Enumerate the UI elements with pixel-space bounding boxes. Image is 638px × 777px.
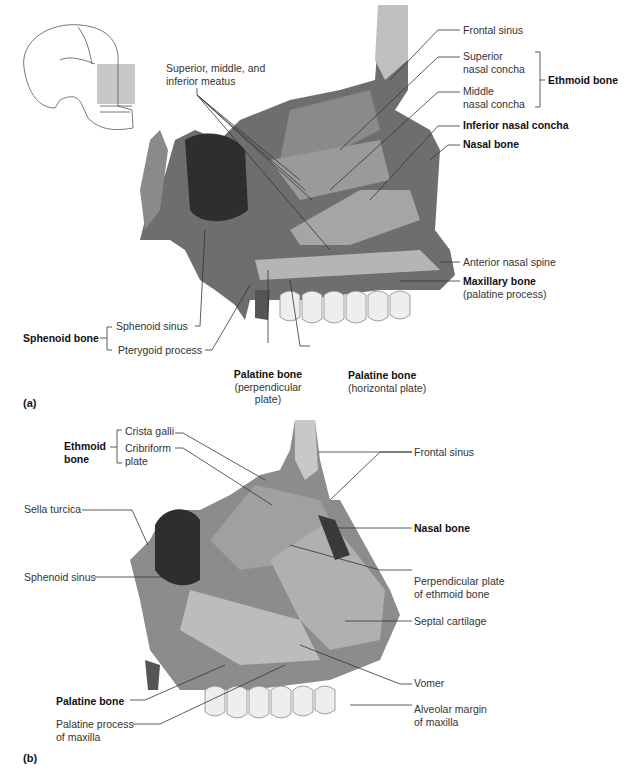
label-maxillary-bone-title: Maxillary bone: [463, 275, 546, 288]
label-ethmoid-bone-a: Ethmoid bone: [548, 74, 618, 87]
label-palatine-process-line1: Palatine process: [56, 718, 134, 731]
label-middle-concha-line1: Middle: [463, 85, 525, 98]
label-alveolar-line2: of maxilla: [414, 716, 487, 729]
label-superior-concha: Superior nasal concha: [463, 50, 525, 75]
label-cribriform-line2: plate: [125, 455, 171, 468]
label-palatine-process-line2: of maxilla: [56, 731, 134, 744]
label-ethmoid-bone-b: Ethmoid bone: [64, 440, 106, 465]
label-middle-concha-line2: nasal concha: [463, 98, 525, 111]
label-cribriform-plate: Cribriform plate: [125, 442, 171, 467]
label-ethmoid-b-line1: Ethmoid: [64, 440, 106, 453]
label-nasal-bone-a: Nasal bone: [463, 138, 519, 151]
label-middle-concha: Middle nasal concha: [463, 85, 525, 110]
label-alveolar-line1: Alveolar margin: [414, 703, 487, 716]
label-pterygoid-process: Pterygoid process: [118, 344, 202, 357]
label-sphenoid-sinus-b: Sphenoid sinus: [24, 571, 96, 584]
label-palatine-horiz-title: Palatine bone: [348, 369, 426, 382]
label-inferior-concha: Inferior nasal concha: [463, 119, 569, 132]
label-cribriform-line1: Cribriform: [125, 442, 171, 455]
label-anterior-nasal-spine: Anterior nasal spine: [463, 256, 556, 269]
label-palatine-horizontal: Palatine bone (horizontal plate): [348, 369, 426, 394]
label-nasal-bone-b: Nasal bone: [414, 522, 470, 535]
label-perp-plate-line2: of ethmoid bone: [414, 588, 504, 601]
label-palatine-process: Palatine process of maxilla: [56, 718, 134, 743]
label-meatus-line2: inferior meatus: [166, 75, 265, 88]
label-perpendicular-plate: Perpendicular plate of ethmoid bone: [414, 575, 504, 600]
anatomy-artwork: [0, 0, 638, 777]
label-frontal-sinus-b: Frontal sinus: [414, 446, 474, 459]
label-sphenoid-bone-a: Sphenoid bone: [23, 332, 99, 345]
label-palatine-bone-b: Palatine bone: [56, 695, 124, 708]
label-palatine-perp-sub2: plate): [232, 393, 304, 406]
label-alveolar-margin: Alveolar margin of maxilla: [414, 703, 487, 728]
skull-locator-icon: [24, 25, 135, 130]
label-crista-galli: Crista galli: [125, 425, 174, 438]
label-perp-plate-line1: Perpendicular plate: [414, 575, 504, 588]
label-superior-concha-line1: Superior: [463, 50, 525, 63]
label-palatine-horiz-sub: (horizontal plate): [348, 382, 426, 395]
label-palatine-perp-title: Palatine bone: [232, 368, 304, 381]
lateral-wall-illustration: [140, 5, 455, 323]
label-ethmoid-b-line2: bone: [64, 453, 106, 466]
label-vomer: Vomer: [414, 677, 444, 690]
panel-letter-b: (b): [23, 752, 37, 764]
label-maxillary-bone-sub: (palatine process): [463, 288, 546, 301]
label-septal-cartilage: Septal cartilage: [414, 615, 486, 628]
label-sphenoid-sinus-a: Sphenoid sinus: [116, 320, 188, 333]
label-palatine-perpendicular: Palatine bone (perpendicular plate): [232, 368, 304, 406]
label-meatus: Superior, middle, and inferior meatus: [166, 62, 265, 87]
label-maxillary-bone: Maxillary bone (palatine process): [463, 275, 546, 300]
label-sella-turcica: Sella turcica: [24, 503, 81, 516]
label-superior-concha-line2: nasal concha: [463, 63, 525, 76]
label-frontal-sinus-a: Frontal sinus: [463, 24, 523, 37]
label-meatus-line1: Superior, middle, and: [166, 62, 265, 75]
panel-letter-a: (a): [23, 397, 36, 409]
label-palatine-perp-sub1: (perpendicular: [232, 381, 304, 394]
